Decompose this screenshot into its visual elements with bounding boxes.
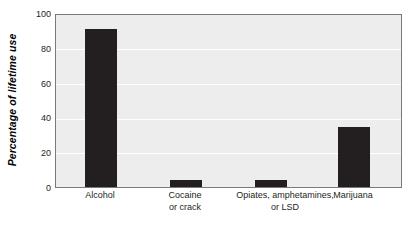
- bar-alcohol: [85, 29, 117, 187]
- bar-chart-figure: Percentage of lifetime use 100 80 60 40 …: [0, 0, 420, 230]
- y-tick-label: 80: [5, 45, 51, 54]
- x-tick-line-1: Alcohol: [85, 190, 115, 200]
- y-tick-label: 60: [5, 80, 51, 89]
- y-tick-label: 40: [5, 114, 51, 123]
- x-tick-label-alcohol: Alcohol: [55, 190, 145, 202]
- x-tick-line-1: Cocaine: [168, 190, 201, 200]
- y-axis-tick-labels: 100 80 60 40 20 0: [0, 0, 51, 230]
- x-tick-line-1: Marijuana: [333, 190, 373, 200]
- bar-opiates: [255, 180, 287, 187]
- x-tick-line-2: or LSD: [210, 202, 360, 214]
- y-tick-label: 20: [5, 149, 51, 158]
- y-tick-label: 100: [5, 10, 51, 19]
- bar-marijuana: [338, 127, 370, 187]
- bar-cocaine: [170, 180, 202, 187]
- y-tick-label: 0: [5, 184, 51, 193]
- x-axis-tick-labels: Alcohol Cocaine or crack Opiates, amphet…: [55, 190, 402, 230]
- x-tick-label-marijuana: Marijuana: [308, 190, 398, 202]
- plot-area: [55, 14, 402, 188]
